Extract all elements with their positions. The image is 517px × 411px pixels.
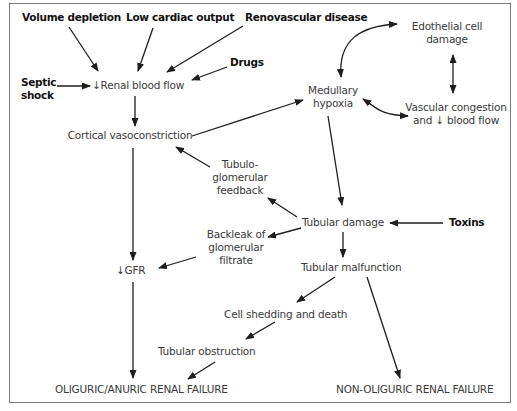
arrow-obstruction-to-oliguric [188, 362, 215, 379]
arrow-shedding-to-obstruction [246, 322, 275, 339]
node-edothelial-line2: damage [412, 33, 483, 46]
node-edothelial-cell-damage: Edothelial cell damage [412, 20, 483, 46]
node-tubular-malfunction: Tubular malfunction [301, 261, 401, 274]
node-backleak-line1: Backleak of [207, 228, 266, 241]
node-volume-depletion: Volume depletion [22, 11, 121, 24]
node-backleak-line2: glomerular [207, 241, 266, 254]
arrow-malfunction-to-nonoliguric [367, 277, 400, 378]
node-vascular-line1: Vascular congestion [405, 101, 506, 114]
arrow-tgf-to-cortical [176, 147, 210, 167]
arrow-malfunction-to-shedding [297, 277, 335, 302]
node-tubuloglomerular-feedback: Tubulo- glomerular feedback [212, 158, 267, 197]
arrow-cardiac-to-rbf [138, 28, 153, 71]
node-tubular-obstruction: Tubular obstruction [158, 345, 256, 358]
node-renal-blood-flow: ↓Renal blood flow [92, 79, 184, 92]
node-low-cardiac-output: Low cardiac output [126, 11, 234, 24]
node-medullary-hypoxia: Medullary hypoxia [308, 84, 358, 110]
arrow-drugs-to-rbf [192, 67, 227, 80]
node-septic-shock-line1: Septic [21, 76, 56, 89]
node-oliguric-renal-failure: OLIGURIC/ANURIC RENAL FAILURE [55, 383, 228, 396]
node-renovascular-disease: Renovascular disease [245, 11, 367, 24]
node-toxins: Toxins [449, 216, 484, 229]
arrow-medullary-edothelial [341, 24, 397, 77]
arrow-tubular-to-backleak [268, 228, 301, 237]
node-cortical-vasoconstriction: Cortical vasoconstriction [68, 129, 193, 142]
arrow-medullary-to-tubular [328, 116, 342, 205]
arrow-tubular-to-tgf [268, 198, 297, 217]
arrow-cortical-to-medullary [192, 100, 303, 136]
node-drugs: Drugs [230, 56, 264, 69]
node-edothelial-line1: Edothelial cell [412, 20, 483, 33]
node-tgf-line2: glomerular [212, 171, 267, 184]
arrow-backleak-to-gfr [159, 257, 196, 268]
node-cell-shedding: Cell shedding and death [224, 308, 347, 321]
node-vascular-line2: and ↓ blood flow [405, 114, 506, 127]
node-septic-shock: Septic shock [21, 76, 56, 102]
arrow-medullary-vascular [363, 99, 408, 116]
node-septic-shock-line2: shock [21, 89, 56, 102]
node-non-oliguric-renal-failure: NON-OLIGURIC RENAL FAILURE [336, 383, 493, 396]
node-tgf-line1: Tubulo- [212, 158, 267, 171]
node-backleak-line3: filtrate [207, 254, 266, 267]
node-tubular-damage: Tubular damage [302, 216, 384, 229]
node-backleak: Backleak of glomerular filtrate [207, 228, 266, 267]
node-gfr: ↓GFR [116, 264, 145, 277]
node-medullary-line1: Medullary [308, 84, 358, 97]
arrow-volume-to-rbf [69, 27, 98, 71]
node-vascular-congestion: Vascular congestion and ↓ blood flow [405, 101, 506, 127]
node-medullary-line2: hypoxia [308, 97, 358, 110]
node-tgf-line3: feedback [212, 184, 267, 197]
